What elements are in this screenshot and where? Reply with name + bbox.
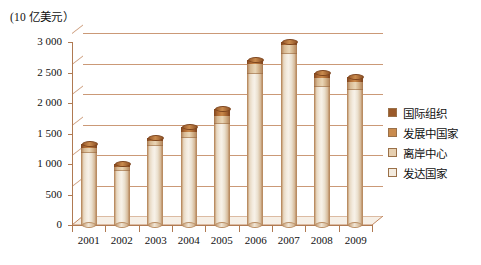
x-tick-mark-2005 [205, 225, 206, 232]
gridline-slant-2500 [72, 55, 83, 74]
bar-2001[interactable] [81, 144, 97, 225]
bar-top-ellipse-2007 [282, 39, 298, 45]
bar-segment-developed-2006 [247, 64, 263, 225]
legend-item-0[interactable]: 国际组织 [388, 104, 458, 121]
gridline-1000 [83, 155, 383, 156]
bar-top-ellipse-2006 [248, 57, 264, 63]
gridline-3000 [83, 33, 383, 34]
bar-segment-divider-lower-2003 [147, 145, 163, 146]
x-axis-label-2004: 2004 [172, 234, 205, 246]
x-tick-mark-2006 [239, 225, 240, 232]
bar-segment-developed-2001 [81, 148, 97, 225]
y-tick-label-2000: 2 000 [18, 96, 62, 108]
x-axis-label-2001: 2001 [72, 234, 105, 246]
bar-top-ellipse-2001 [82, 141, 98, 147]
x-tick-mark-2003 [139, 225, 140, 232]
legend-swatch-icon-3 [388, 168, 397, 177]
bar-segment-divider-lower-2006 [247, 73, 263, 74]
bar-segment-developed-2009 [347, 82, 363, 225]
bar-2009[interactable] [347, 77, 363, 225]
bar-2004[interactable] [181, 127, 197, 225]
x-tick-mark-2001 [72, 225, 73, 232]
bar-segment-intl-org-2003 [147, 138, 163, 141]
bar-2003[interactable] [147, 138, 163, 225]
bar-top-ellipse-2008 [315, 70, 331, 76]
legend-swatch-icon-1 [388, 128, 397, 137]
legend-swatch-icon-2 [388, 148, 397, 157]
y-tick-label-3000: 3 000 [18, 35, 62, 47]
legend: 国际组织 发展中国家 离岸中心 发达国家 [388, 104, 458, 184]
bar-segment-intl-org-2008 [314, 73, 330, 78]
gridline-slant-3000 [72, 24, 83, 43]
bar-chart: (10 亿美元） 05001 0001 5002 0002 5003 000 2… [0, 0, 481, 265]
bar-2007[interactable] [281, 42, 297, 225]
legend-label-3: 发达国家 [403, 165, 447, 181]
bar-segment-intl-org-2004 [181, 127, 197, 131]
bar-segment-developed-2007 [281, 45, 297, 225]
bar-segment-divider-lower-2001 [81, 152, 97, 153]
y-tick-label-1000: 1 000 [18, 157, 62, 169]
legend-label-1: 发展中国家 [403, 125, 458, 141]
bar-segment-intl-org-2001 [81, 144, 97, 147]
x-tick-mark-2008 [305, 225, 306, 232]
bar-segment-divider-lower-2009 [347, 89, 363, 90]
x-axis-label-2008: 2008 [305, 234, 338, 246]
bar-segment-intl-org-2005 [214, 109, 230, 116]
gridline-slant-2000 [72, 85, 83, 104]
x-tick-mark-2002 [105, 225, 106, 232]
bar-segment-divider-lower-2002 [114, 170, 130, 171]
gridline-1500 [83, 125, 383, 126]
y-tick-label-2500: 2 500 [18, 66, 62, 78]
bar-2002[interactable] [114, 164, 130, 225]
bar-top-ellipse-2005 [215, 106, 231, 112]
bar-segment-divider-lower-2008 [314, 86, 330, 87]
bar-top-ellipse-2004 [182, 124, 198, 130]
x-axis-label-2005: 2005 [205, 234, 238, 246]
legend-swatch-icon-0 [388, 108, 397, 117]
bar-segment-intl-org-2006 [247, 60, 263, 64]
y-axis-line [72, 42, 73, 225]
x-tick-mark-2009 [339, 225, 340, 232]
bar-segment-divider-lower-2007 [281, 53, 297, 54]
legend-item-3[interactable]: 发达国家 [388, 164, 458, 181]
x-axis-label-2002: 2002 [105, 234, 138, 246]
bar-segment-divider-lower-2005 [214, 123, 230, 124]
bar-segment-divider-lower-2004 [181, 137, 197, 138]
legend-item-2[interactable]: 离岸中心 [388, 144, 458, 161]
legend-label-0: 国际组织 [403, 105, 447, 121]
bar-segment-developed-2005 [214, 116, 230, 225]
bar-segment-intl-org-2002 [114, 164, 130, 167]
legend-item-1[interactable]: 发展中国家 [388, 124, 458, 141]
x-tick-mark-end [372, 225, 373, 232]
bar-top-ellipse-2003 [148, 135, 164, 141]
x-tick-mark-2007 [272, 225, 273, 232]
bar-segment-intl-org-2007 [281, 42, 297, 45]
x-tick-mark-2004 [172, 225, 173, 232]
gridline-2000 [83, 94, 383, 95]
y-tick-label-500: 500 [18, 188, 62, 200]
bar-segment-developed-2004 [181, 132, 197, 225]
gridline-2500 [83, 64, 383, 65]
y-tick-label-1500: 1 500 [18, 127, 62, 139]
x-axis-label-2003: 2003 [139, 234, 172, 246]
y-tick-label-0: 0 [18, 218, 62, 230]
x-axis-label-2007: 2007 [272, 234, 305, 246]
bar-segment-developed-2003 [147, 141, 163, 225]
bar-segment-developed-2002 [114, 167, 130, 225]
x-axis-label-2006: 2006 [239, 234, 272, 246]
bar-segment-intl-org-2009 [347, 77, 363, 82]
bar-2005[interactable] [214, 109, 230, 225]
bar-top-ellipse-2009 [348, 74, 364, 80]
bar-2006[interactable] [247, 60, 263, 225]
bar-top-ellipse-2002 [115, 161, 131, 167]
bar-2008[interactable] [314, 73, 330, 226]
bar-segment-developed-2008 [314, 78, 330, 225]
legend-label-2: 离岸中心 [403, 145, 447, 161]
gridline-slant-1500 [72, 116, 83, 135]
x-axis-label-2009: 2009 [339, 234, 372, 246]
